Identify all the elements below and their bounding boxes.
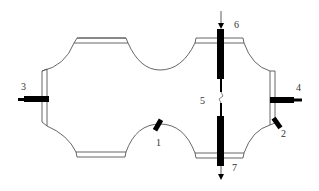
label-7: 7 xyxy=(232,162,237,173)
rod-7 xyxy=(217,103,224,180)
label-2: 2 xyxy=(281,128,286,139)
element-1 xyxy=(153,119,163,132)
label-6: 6 xyxy=(234,19,239,30)
label-3: 3 xyxy=(21,81,26,92)
label-1: 1 xyxy=(156,137,161,148)
top-right-curve xyxy=(244,43,270,71)
arrow-down-icon xyxy=(218,23,224,29)
top-left-plate xyxy=(74,38,128,43)
top-middle-curve xyxy=(128,43,195,70)
bottom-left-plate xyxy=(76,152,126,157)
cavity-diagram: 1 2 3 4 5 6 7 xyxy=(0,0,319,191)
label-4: 4 xyxy=(296,82,301,93)
arrow-down-icon xyxy=(218,174,224,180)
rod-6 xyxy=(217,11,224,92)
bottom-left-curve xyxy=(47,126,76,152)
top-left-curve xyxy=(42,43,74,71)
bottom-right-curve xyxy=(244,125,270,153)
label-5: 5 xyxy=(200,95,205,106)
bar-4 xyxy=(270,97,302,103)
gap-5 xyxy=(219,92,223,103)
bar-3 xyxy=(18,96,49,102)
